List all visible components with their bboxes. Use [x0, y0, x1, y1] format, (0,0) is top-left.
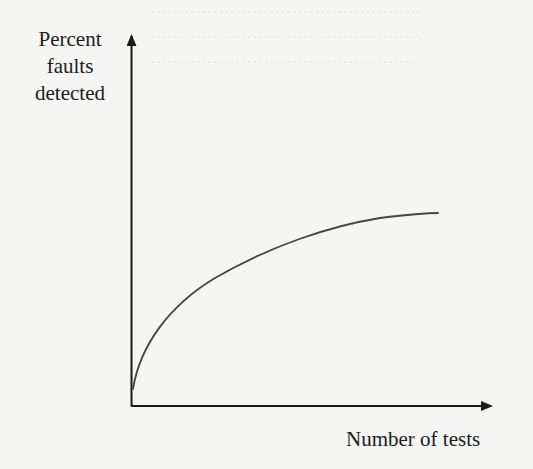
x-axis-label: Number of tests [346, 427, 480, 452]
y-axis-label-line-3: detected [10, 80, 130, 107]
faults-detected-curve [133, 213, 438, 389]
y-axis-label-line-2: faults [10, 53, 130, 80]
y-axis-label: Percent faults detected [10, 26, 130, 107]
y-axis-label-line-1: Percent [10, 26, 130, 53]
figure-page: ········································… [0, 0, 533, 469]
